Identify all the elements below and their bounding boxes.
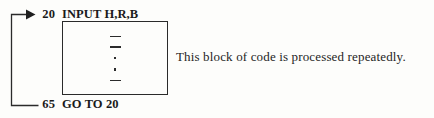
code-line-65: 65GO TO 20 [38, 97, 119, 112]
block-mark-dot-1 [114, 57, 117, 60]
basic-program-loop-figure: 20INPUT H,R,B 65GO TO 20 This block of c… [0, 0, 434, 118]
repeated-code-block [62, 21, 168, 95]
ellipsis-marks [63, 22, 167, 94]
statement-input: INPUT H,R,B [62, 7, 138, 22]
block-mark-dash-3 [110, 80, 121, 82]
block-mark-dot-2 [114, 68, 117, 71]
line-number-20: 20 [38, 7, 55, 22]
code-line-20: 20INPUT H,R,B [38, 7, 138, 22]
annotation-text: This block of code is processed repeated… [176, 49, 406, 65]
block-mark-dash-2 [110, 46, 121, 48]
block-mark-dash-1 [110, 36, 121, 38]
line-number-65: 65 [38, 97, 55, 112]
statement-goto: GO TO 20 [62, 97, 119, 112]
